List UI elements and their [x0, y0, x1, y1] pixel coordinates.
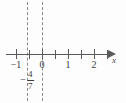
- tick-2: [94, 49, 95, 59]
- x-axis-label: x: [112, 56, 116, 65]
- number-line-figure: x −1 0 1 2 − 4 7: [0, 0, 126, 103]
- fraction-denominator: 7: [28, 82, 33, 91]
- tick-minus-0-5: [29, 50, 30, 59]
- tick-0: [42, 49, 43, 59]
- tick-2-5: [107, 50, 108, 59]
- tick-label-minus-1: −1: [11, 60, 22, 70]
- fraction-stack: 4 7: [27, 70, 34, 91]
- tick-1-5: [81, 50, 82, 59]
- fraction-numerator: 4: [28, 70, 33, 79]
- tick-label-2: 2: [92, 60, 97, 70]
- tick-label-0: 0: [40, 60, 45, 70]
- tick-1: [68, 49, 69, 59]
- tick-label-1: 1: [66, 60, 71, 70]
- fraction-label-minus-four-sevenths: − 4 7: [20, 70, 34, 91]
- tick-0-5: [55, 50, 56, 59]
- fraction-minus-sign: −: [20, 75, 26, 85]
- tick-minus-1: [16, 49, 17, 59]
